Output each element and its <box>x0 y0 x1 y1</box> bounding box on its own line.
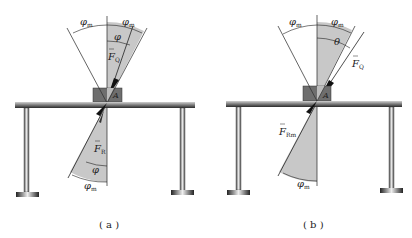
panel-b: φm φm θ FQ A FRm φm ( b ) <box>226 15 403 230</box>
label-force-fq-b: FQ <box>351 58 364 70</box>
table-leg-left-b <box>236 107 241 190</box>
friction-cone-diagram: φm φm φ FQ A FR φ φm ( a ) <box>0 0 412 238</box>
table-foot-right <box>171 190 194 195</box>
table-foot-left <box>16 192 39 197</box>
label-point-a: A <box>112 91 119 100</box>
label-phi-m-left: φm <box>80 16 93 28</box>
label-phi-m-right-b: φm <box>331 16 344 28</box>
label-phi-m-left-b: φm <box>289 16 302 28</box>
label-phi-bottom: φ <box>92 164 99 175</box>
reaction-sector-bottom <box>70 103 107 182</box>
label-point-a-b: A <box>322 91 329 100</box>
label-phi-m-right: φm <box>122 16 135 28</box>
table-leg-left <box>24 108 29 192</box>
table-leg-right <box>180 108 185 192</box>
label-force-frm: FRm <box>278 126 296 138</box>
caption-b: ( b ) <box>303 219 324 230</box>
table-foot-right-b <box>380 188 403 193</box>
panel-a: φm φm φ FQ A FR φ φm ( a ) <box>15 16 195 230</box>
label-phi: φ <box>114 31 121 42</box>
caption-a: ( a ) <box>99 219 119 230</box>
table-leg-right-b <box>389 107 394 190</box>
label-theta: θ <box>334 36 340 47</box>
table-foot-left-b <box>227 190 250 195</box>
